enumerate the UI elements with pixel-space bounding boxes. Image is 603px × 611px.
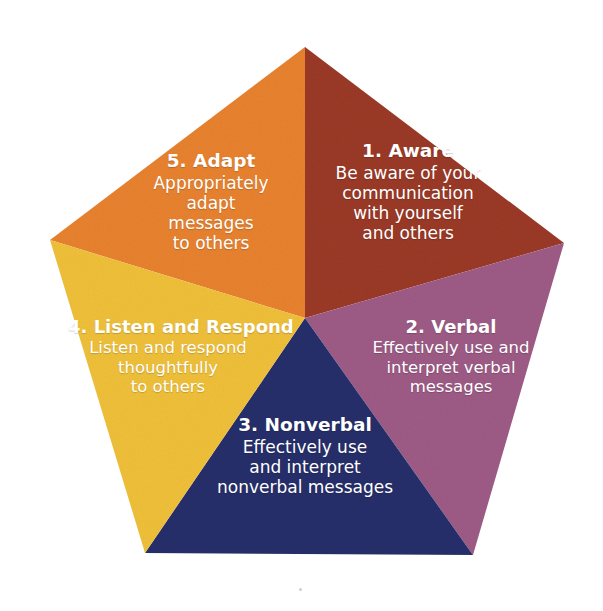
- cropped-bottom-caption: [222, 544, 392, 553]
- pentagon-diagram: 1. Aware Be aware of yourcommunicationwi…: [0, 0, 603, 611]
- segment-title-adapt: 5. Adapt: [131, 150, 291, 172]
- segment-body-nonverbal: Effectively useand interpretnonverbal me…: [190, 437, 420, 497]
- segment-title-verbal: 2. Verbal: [365, 316, 537, 337]
- segment-label-aware: 1. Aware Be aware of yourcommunicationwi…: [313, 140, 503, 243]
- segment-body-verbal: Effectively use andinterpret verbalmessa…: [365, 338, 537, 396]
- segment-label-nonverbal: 3. Nonverbal Effectively useand interpre…: [190, 414, 420, 497]
- segment-title-nonverbal: 3. Nonverbal: [190, 414, 420, 436]
- segment-label-verbal: 2. Verbal Effectively use andinterpret v…: [365, 316, 537, 397]
- segment-body-adapt: Appropriatelyadaptmessagesto others: [131, 173, 291, 253]
- scan-speck: [299, 588, 302, 591]
- segment-label-listen: 4. Listen and Respond Listen and respond…: [68, 316, 268, 397]
- segment-title-listen: 4. Listen and Respond: [68, 316, 268, 337]
- segment-label-adapt: 5. Adapt Appropriatelyadaptmessagesto ot…: [131, 150, 291, 253]
- segment-title-aware: 1. Aware: [313, 140, 503, 162]
- segment-body-listen: Listen and respondthoughtfullyto others: [68, 338, 268, 396]
- pentagon-svg: [0, 0, 603, 611]
- segment-body-aware: Be aware of yourcommunicationwith yourse…: [313, 163, 503, 243]
